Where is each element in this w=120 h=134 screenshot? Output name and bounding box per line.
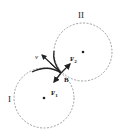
diagram-canvas: II I v F2 F1 B <box>0 0 120 134</box>
center-ii-dot <box>82 51 85 54</box>
velocity-label: v <box>35 53 39 61</box>
point-b-label: B <box>64 76 69 84</box>
label-i: I <box>8 94 11 104</box>
force-f1-arrow <box>54 73 61 82</box>
force-f2-arrow <box>61 64 70 73</box>
label-ii: II <box>78 10 84 20</box>
velocity-arrow <box>42 55 61 73</box>
force-f1-label: F1 <box>51 89 58 98</box>
force-f2-label: F2 <box>70 55 77 64</box>
center-i-dot <box>43 97 46 100</box>
